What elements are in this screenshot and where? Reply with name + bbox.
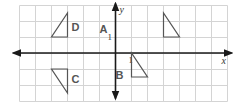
triangle-c: C xyxy=(52,69,80,93)
triangle-label: D xyxy=(72,21,80,33)
x-tick-label: 1 xyxy=(129,55,134,65)
y-axis-label: y xyxy=(119,4,125,15)
triangle-d: D xyxy=(52,13,80,37)
triangle-label: C xyxy=(72,73,80,85)
x-axis-label: x xyxy=(221,55,227,66)
triangle-label: B xyxy=(116,69,124,81)
triangle-b: B xyxy=(116,53,148,81)
triangle-shape xyxy=(132,53,148,77)
y-tick-label: 1 xyxy=(108,32,113,42)
triangle-shape xyxy=(52,69,68,93)
triangle-shape xyxy=(52,13,68,37)
triangle-shape xyxy=(164,13,180,37)
triangle-label: A xyxy=(100,23,108,35)
coordinate-plane: x y 1 1 ABCD xyxy=(0,0,239,108)
